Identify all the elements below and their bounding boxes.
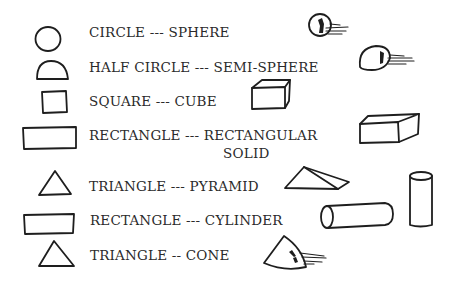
rectangular-solid-icon [360,114,419,143]
shapes-canvas [0,0,456,287]
sphere-icon [309,14,348,36]
row-triangle-cone: TRIANGLE -- CONE [90,247,230,263]
cylinder-vertical-icon [410,172,432,227]
row-circle-sphere: CIRCLE --- SPHERE [89,24,230,40]
rectangle-icon-2 [24,214,74,234]
row-square-cube: SQUARE --- CUBE [89,93,217,109]
cylinder-horizontal-icon [321,203,393,228]
cube-icon [252,80,290,109]
circle-icon [36,27,61,51]
row-rectangle-rectangular-solid: RECTANGLE --- RECTANGULAR [89,127,317,143]
half-circle-icon [37,61,68,79]
triangle-icon-2 [39,241,74,266]
row-rectangle-rectangular-solid-line2: SOLID [223,145,269,161]
square-icon [42,91,67,113]
row-triangle-pyramid: TRIANGLE --- PYRAMID [89,178,259,194]
row-half-circle-semi-sphere: HALF CIRCLE --- SEMI-SPHERE [89,59,319,75]
triangle-icon [39,171,71,195]
semi-sphere-icon [360,46,414,70]
cone-icon [264,236,326,269]
row-rectangle-cylinder: RECTANGLE --- CYLINDER [90,212,283,228]
rectangle-icon [23,127,76,149]
pyramid-icon [285,167,349,189]
